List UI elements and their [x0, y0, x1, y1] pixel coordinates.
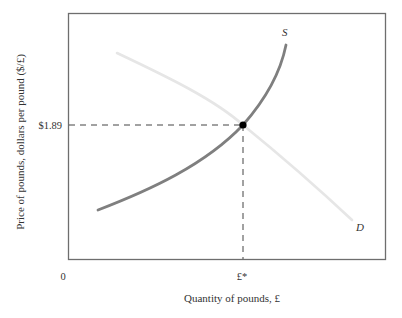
demand-curve	[117, 53, 352, 220]
price-tick-label: $1.89	[38, 120, 62, 131]
plot-frame	[69, 14, 386, 260]
demand-label: D	[355, 221, 364, 233]
origin-label: 0	[60, 271, 65, 282]
quantity-tick-label: £*	[237, 271, 248, 282]
exchange-rate-chart: S D $1.89 0 £* Quantity of pounds, £ Pri…	[0, 0, 402, 318]
equilibrium-point	[239, 121, 246, 128]
supply-label: S	[282, 26, 288, 38]
y-axis-title: Price of pounds, dollars per pound ($/£)	[14, 54, 27, 230]
x-axis-title: Quantity of pounds, £	[184, 292, 280, 304]
supply-curve	[98, 45, 286, 210]
